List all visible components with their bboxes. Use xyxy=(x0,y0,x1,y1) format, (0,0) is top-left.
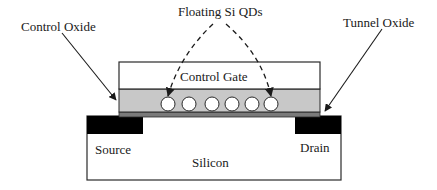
tunnel-oxide-layer xyxy=(119,112,320,117)
source-label: Source xyxy=(95,143,131,156)
control-oxide-arrow xyxy=(62,33,116,100)
quantum-dot xyxy=(182,97,196,111)
source-region xyxy=(87,116,143,134)
quantum-dot xyxy=(225,97,239,111)
silicon-label: Silicon xyxy=(192,156,229,169)
drain-region xyxy=(295,116,341,134)
quantum-dot xyxy=(245,97,259,111)
tunnel-oxide-label: Tunnel Oxide xyxy=(343,16,414,29)
quantum-dot xyxy=(205,97,219,111)
quantum-dot xyxy=(264,97,278,111)
floating-qds-label: Floating Si QDs xyxy=(178,5,263,18)
tunnel-oxide-arrow xyxy=(325,29,382,111)
drain-label: Drain xyxy=(300,141,330,154)
control-gate-label: Control Gate xyxy=(180,70,248,83)
control-oxide-label: Control Oxide xyxy=(21,20,96,33)
control-oxide-layer xyxy=(119,89,320,112)
quantum-dot xyxy=(161,97,175,111)
